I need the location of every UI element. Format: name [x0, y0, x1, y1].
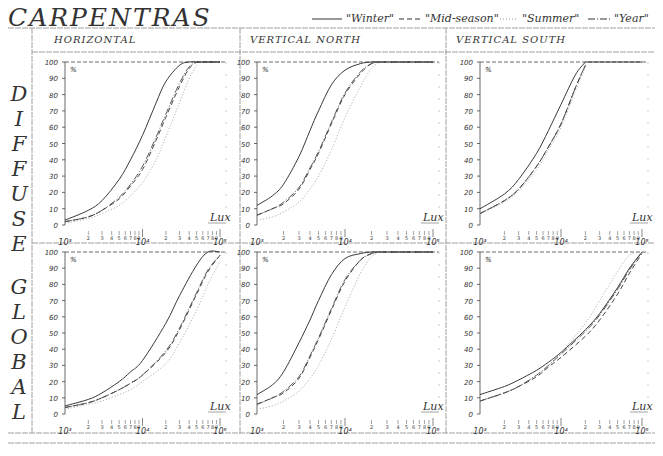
svg-text:4: 4 [110, 424, 113, 430]
svg-text:90: 90 [49, 265, 58, 273]
series-year [257, 252, 433, 404]
svg-text:50: 50 [241, 330, 250, 338]
svg-text:Lux: Lux [631, 211, 653, 224]
svg-text:6: 6 [541, 235, 544, 241]
svg-text:%: % [485, 256, 492, 264]
svg-text:7: 7 [628, 235, 631, 241]
svg-text:10⁵: 10⁵ [635, 427, 648, 436]
chart-panel-4: 0102030405060708090100%23456789234567891… [237, 249, 445, 436]
series-summer [257, 62, 433, 220]
svg-text:5: 5 [535, 424, 538, 430]
svg-text:2: 2 [164, 235, 167, 241]
svg-text:3: 3 [598, 424, 601, 430]
svg-text:40: 40 [241, 157, 250, 165]
svg-text:7: 7 [206, 235, 209, 241]
svg-text:10⁴: 10⁴ [338, 427, 352, 436]
chart-panel-5: 0102030405060708090100%23456789234567891… [460, 249, 654, 436]
svg-text:5: 5 [317, 235, 320, 241]
svg-text:60: 60 [464, 124, 473, 132]
svg-text:70: 70 [464, 298, 473, 306]
svg-text:10: 10 [241, 395, 250, 403]
svg-text:100: 100 [460, 59, 474, 67]
svg-text:90: 90 [464, 265, 473, 273]
svg-text:0: 0 [246, 222, 251, 230]
svg-text:10³: 10³ [58, 238, 71, 247]
svg-text:3: 3 [100, 235, 103, 241]
series-mid-season [65, 255, 220, 407]
svg-text:5: 5 [616, 235, 619, 241]
series-year [480, 252, 642, 401]
svg-text:7: 7 [628, 424, 631, 430]
svg-text:4: 4 [527, 235, 530, 241]
series-summer [480, 252, 642, 401]
svg-text:2: 2 [282, 424, 285, 430]
svg-text:90: 90 [49, 75, 58, 83]
svg-text:10⁴: 10⁴ [136, 238, 150, 247]
svg-text:10⁵: 10⁵ [635, 238, 648, 247]
svg-text:0: 0 [469, 411, 474, 419]
svg-text:5: 5 [118, 424, 121, 430]
svg-text:4: 4 [608, 235, 611, 241]
svg-text:90: 90 [464, 75, 473, 83]
svg-text:%: % [262, 256, 269, 264]
series-winter [257, 252, 433, 395]
svg-text:80: 80 [464, 92, 473, 100]
svg-text:40: 40 [464, 346, 473, 354]
svg-text:10⁵: 10⁵ [426, 427, 439, 436]
svg-text:10: 10 [241, 206, 250, 214]
svg-text:60: 60 [49, 124, 58, 132]
svg-text:80: 80 [49, 281, 58, 289]
svg-text:3: 3 [385, 424, 388, 430]
svg-text:30: 30 [241, 173, 250, 181]
svg-text:10⁵: 10⁵ [213, 427, 226, 436]
svg-text:80: 80 [464, 281, 473, 289]
svg-text:40: 40 [464, 157, 473, 165]
svg-text:10³: 10³ [250, 238, 263, 247]
svg-text:2: 2 [503, 235, 506, 241]
svg-text:100: 100 [237, 249, 251, 257]
svg-text:7: 7 [330, 235, 333, 241]
svg-text:Lux: Lux [422, 211, 444, 224]
svg-text:0: 0 [469, 222, 474, 230]
svg-text:2: 2 [584, 235, 587, 241]
svg-text:10: 10 [49, 206, 58, 214]
svg-text:5: 5 [195, 424, 198, 430]
svg-text:Lux: Lux [422, 400, 444, 413]
svg-text:50: 50 [49, 141, 58, 149]
series-mid-season [257, 252, 433, 404]
svg-text:4: 4 [608, 424, 611, 430]
series-year [257, 62, 433, 215]
svg-text:7: 7 [418, 424, 421, 430]
svg-text:2: 2 [87, 424, 90, 430]
svg-text:4: 4 [308, 424, 311, 430]
svg-text:3: 3 [178, 424, 181, 430]
svg-text:10³: 10³ [58, 427, 71, 436]
svg-text:3: 3 [598, 235, 601, 241]
series-summer [257, 252, 433, 409]
svg-text:3: 3 [517, 424, 520, 430]
svg-text:100: 100 [237, 59, 251, 67]
svg-text:6: 6 [201, 235, 204, 241]
series-winter [65, 251, 220, 406]
svg-text:4: 4 [527, 424, 530, 430]
svg-text:6: 6 [324, 235, 327, 241]
svg-text:20: 20 [241, 379, 250, 387]
svg-text:4: 4 [110, 235, 113, 241]
svg-text:4: 4 [188, 424, 191, 430]
svg-text:0: 0 [54, 411, 59, 419]
series-winter [65, 62, 220, 220]
svg-text:6: 6 [622, 235, 625, 241]
svg-text:20: 20 [464, 189, 473, 197]
svg-text:100: 100 [45, 59, 59, 67]
svg-text:2: 2 [164, 424, 167, 430]
svg-text:80: 80 [241, 92, 250, 100]
svg-text:5: 5 [405, 424, 408, 430]
svg-text:5: 5 [317, 424, 320, 430]
svg-text:7: 7 [330, 424, 333, 430]
svg-text:70: 70 [241, 298, 250, 306]
svg-text:2: 2 [282, 235, 285, 241]
svg-text:70: 70 [49, 298, 58, 306]
svg-text:5: 5 [616, 424, 619, 430]
svg-text:60: 60 [464, 314, 473, 322]
svg-text:20: 20 [49, 189, 58, 197]
